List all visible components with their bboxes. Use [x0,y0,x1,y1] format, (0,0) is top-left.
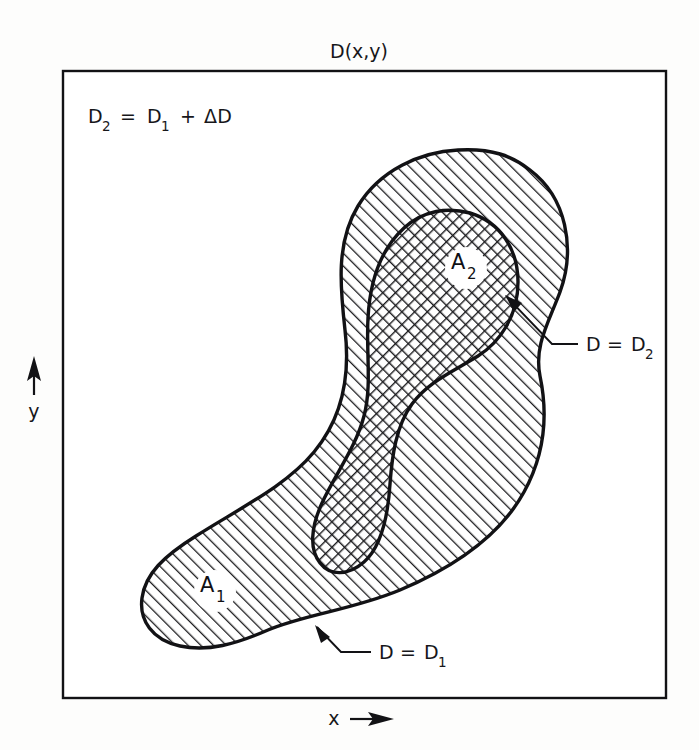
annotation-d2-base: D [586,333,601,355]
annotation-d1-value-sub: 1 [438,654,447,670]
equation-plus: + [180,105,196,127]
equation-lhs-base: D [88,105,103,127]
annotation-d2-value-sub: 2 [645,346,654,362]
equation-lhs-sub: 2 [102,118,111,134]
equation-delta-term: ΔD [204,105,232,127]
equation-rhs-base: D [147,105,162,127]
figure-title: D(x,y) [330,40,388,62]
annotation-d1-value-base: D [424,641,439,663]
region-label-a1: A 1 [194,570,236,612]
y-axis-label: y [28,400,40,422]
annotation-d1-operator: = [400,641,416,663]
annotation-d2-value-base: D [631,333,646,355]
region-label-a1-base: A [200,573,215,597]
annotation-d2-operator: = [607,333,623,355]
region-label-a2: A 2 [445,247,487,289]
region-label-a2-sub: 2 [467,265,477,283]
x-axis-label: x [328,707,340,729]
region-label-a2-base: A [451,250,466,274]
annotation-d1-base: D [379,641,394,663]
diagram-canvas: D(x,y) D 2 = D 1 + ΔD A 1 A 2 [0,0,699,750]
equation-rhs-sub: 1 [161,118,170,134]
region-label-a1-sub: 1 [216,588,226,606]
figure-container: D(x,y) D 2 = D 1 + ΔD A 1 A 2 [0,0,699,750]
equation-operator: = [120,105,136,127]
